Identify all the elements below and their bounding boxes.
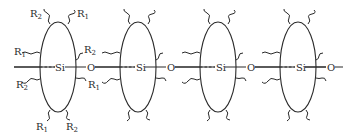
siloxane-unit-1: Si O R2 R1 R1 R2 R2 R1 R1 R2 [14, 8, 100, 134]
si-atom-label: Si [216, 62, 226, 73]
oxygen-atom-label: O [167, 62, 175, 73]
label-bottom-left: R1 [36, 121, 48, 134]
siloxane-unit-4: Si O [255, 9, 335, 121]
siloxane-unit-3: Si O [175, 9, 255, 121]
label-right-lower: R1 [88, 79, 100, 92]
si-atom-label: Si [296, 62, 306, 73]
label-top-right: R1 [77, 8, 89, 21]
siloxane-chain-diagram: Si O R2 R1 R1 R2 R2 R1 R1 R2 Si O [0, 0, 343, 137]
label-right-upper: R2 [84, 44, 96, 57]
label-top-left: R2 [30, 8, 42, 21]
label-left-lower: R2 [16, 79, 28, 92]
si-atom-label: Si [55, 62, 65, 73]
siloxane-unit-2: Si O [95, 9, 175, 121]
si-atom-label: Si [136, 62, 146, 73]
label-bottom-right: R2 [66, 121, 78, 134]
label-left-upper: R1 [14, 46, 26, 59]
oxygen-atom-label: O [87, 62, 95, 73]
oxygen-atom-label: O [327, 62, 335, 73]
oxygen-atom-label: O [247, 62, 255, 73]
